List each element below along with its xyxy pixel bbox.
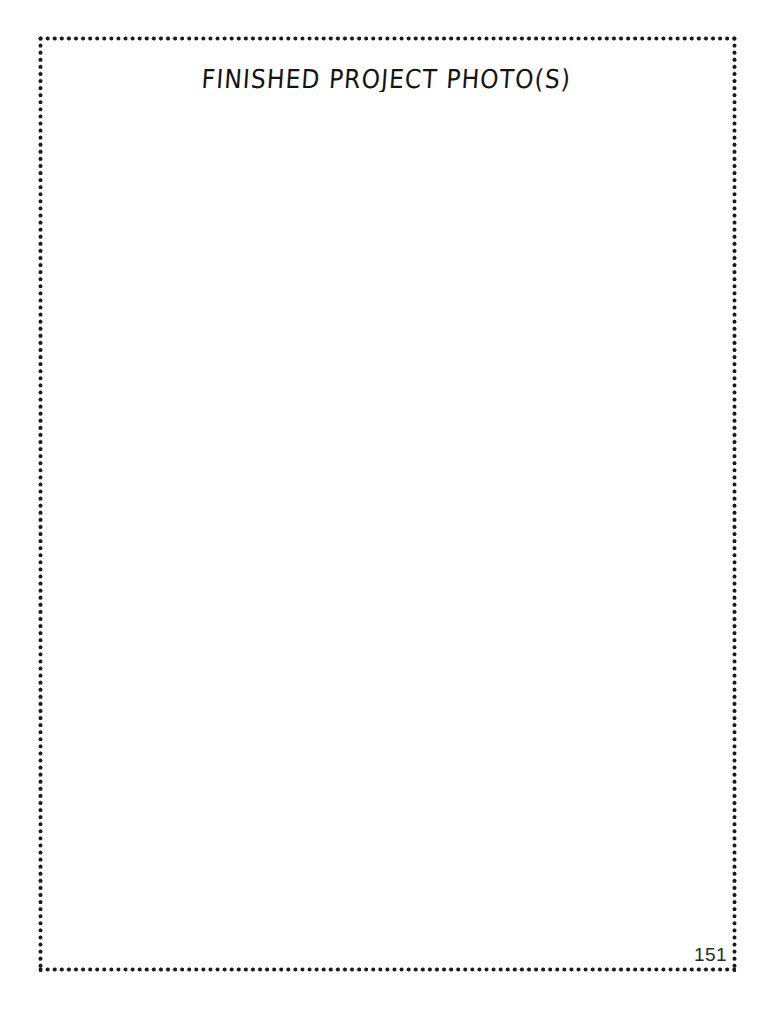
photo-placeholder-area[interactable] xyxy=(46,92,729,948)
page-number: 151 xyxy=(694,945,727,964)
border-edge-top xyxy=(38,36,737,41)
worksheet-page: FINISHED PROJECT PHOTO(S) 151 xyxy=(0,0,771,1010)
border-edge-bottom xyxy=(38,967,737,972)
border-edge-right xyxy=(732,36,737,972)
border-edge-left xyxy=(38,36,43,972)
page-title: FINISHED PROJECT PHOTO(S) xyxy=(38,63,735,95)
